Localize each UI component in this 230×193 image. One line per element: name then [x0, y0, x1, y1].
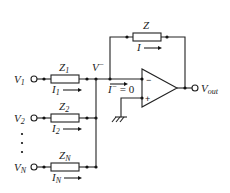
z-feedback-resistor	[133, 33, 161, 41]
z-label: Z	[143, 19, 150, 31]
i-feedback-label: I	[136, 41, 142, 53]
ellipsis-dots	[21, 133, 23, 153]
v2-terminal	[31, 115, 37, 121]
ground-icon	[112, 117, 127, 122]
op-amp: − +	[140, 69, 177, 107]
z1-resistor	[51, 75, 79, 83]
v1-label: V1	[14, 73, 25, 87]
i2-label: I2	[51, 122, 60, 136]
z1-label: Z1	[59, 61, 69, 75]
zn-resistor	[51, 163, 79, 171]
i1-label: I1	[51, 83, 60, 97]
z2-label: Z2	[59, 100, 69, 114]
summing-amplifier-diagram: V1 Z1 I1 V2 Z2 I2 VN	[0, 0, 230, 193]
z2-resistor	[51, 114, 79, 122]
input-branch-n: VN ZN IN	[14, 149, 98, 185]
vn-label: VN	[14, 161, 27, 175]
plus-input-sign: +	[145, 94, 150, 104]
v1-terminal	[31, 76, 37, 82]
output-terminal: Vout	[177, 82, 219, 96]
vn-terminal	[31, 164, 37, 170]
in-label: IN	[51, 171, 62, 185]
zn-label: ZN	[59, 149, 71, 163]
v2-label: V2	[14, 112, 25, 126]
minus-input-sign: −	[146, 75, 151, 85]
ground-wire	[121, 98, 142, 117]
input-branch-2: V2 Z2 I2	[14, 100, 98, 136]
vout-label: Vout	[201, 82, 219, 96]
v-minus-label: V−	[92, 60, 104, 73]
